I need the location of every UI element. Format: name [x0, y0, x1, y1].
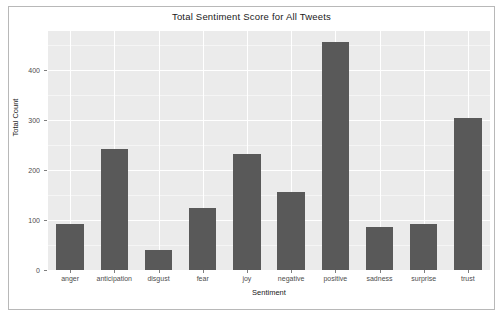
x-tick-mark: [424, 270, 425, 273]
bar-fear: [189, 208, 216, 270]
bar-anticipation: [101, 149, 128, 270]
y-tick-mark: [44, 120, 47, 121]
bar-trust: [454, 118, 481, 270]
bar-joy: [233, 154, 260, 270]
y-tick-mark: [44, 270, 47, 271]
x-tick-label-anger: anger: [61, 275, 79, 282]
y-tick-mark: [44, 70, 47, 71]
x-tick-label-sadness: sadness: [366, 275, 392, 282]
x-tick-mark: [291, 270, 292, 273]
x-tick-mark: [468, 270, 469, 273]
x-tick-mark: [114, 270, 115, 273]
x-tick-mark: [380, 270, 381, 273]
y-axis-title: Total Count: [11, 83, 20, 153]
x-tick-label-fear: fear: [197, 275, 209, 282]
y-tick-label-0: 0: [36, 267, 40, 274]
x-tick-label-surprise: surprise: [411, 275, 436, 282]
y-tick-label-400: 400: [28, 67, 40, 74]
x-tick-mark: [203, 270, 204, 273]
y-tick-mark: [44, 170, 47, 171]
y-tick-label-200: 200: [28, 167, 40, 174]
plot-panel: [48, 31, 490, 270]
y-axis-tick-labels: 0100200300400: [0, 31, 40, 270]
bar-anger: [56, 224, 83, 271]
chart-figure: Total Sentiment Score for All Tweets 010…: [0, 0, 503, 318]
x-tick-label-positive: positive: [323, 275, 347, 282]
bar-positive: [322, 42, 349, 270]
y-axis: 0100200300400: [0, 31, 48, 270]
gridline-major-vertical: [159, 31, 160, 270]
x-tick-label-joy: joy: [242, 275, 251, 282]
x-axis-title: Sentiment: [48, 288, 490, 297]
x-tick-mark: [247, 270, 248, 273]
y-tick-label-100: 100: [28, 217, 40, 224]
x-tick-label-anticipation: anticipation: [97, 275, 132, 282]
bar-sadness: [366, 227, 393, 271]
x-tick-label-trust: trust: [461, 275, 475, 282]
x-tick-label-negative: negative: [278, 275, 304, 282]
chart-title: Total Sentiment Score for All Tweets: [0, 11, 503, 22]
x-tick-mark: [70, 270, 71, 273]
y-tick-label-300: 300: [28, 117, 40, 124]
y-tick-mark: [44, 220, 47, 221]
bar-disgust: [145, 250, 172, 270]
bar-surprise: [410, 224, 437, 270]
x-tick-mark: [159, 270, 160, 273]
x-tick-mark: [335, 270, 336, 273]
x-tick-label-disgust: disgust: [147, 275, 169, 282]
bar-negative: [277, 192, 304, 271]
